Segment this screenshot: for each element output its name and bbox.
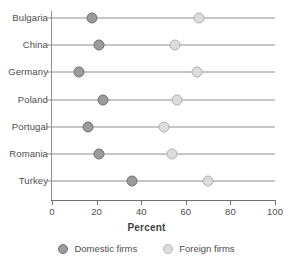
legend-label-domestic: Domestic firms: [74, 243, 137, 254]
x-tick-label-100: 100: [267, 206, 283, 217]
data-point-foreign-bulgaria[interactable]: [194, 13, 205, 24]
domestic-marker-icon: [58, 244, 68, 254]
category-label-china: China: [23, 40, 48, 50]
data-point-domestic-bulgaria[interactable]: [87, 13, 98, 24]
x-axis-title: Percent: [0, 222, 293, 233]
plot-area: BulgariaChinaGermanyPolandPortugalRomani…: [0, 0, 293, 215]
data-point-domestic-germany[interactable]: [73, 67, 84, 78]
x-tick-label-80: 80: [225, 206, 236, 217]
dot-plot-chart: BulgariaChinaGermanyPolandPortugalRomani…: [0, 0, 293, 269]
row-line: [52, 99, 275, 100]
data-point-domestic-portugal[interactable]: [82, 121, 93, 132]
category-label-portugal: Portugal: [12, 122, 48, 132]
legend-label-foreign: Foreign firms: [179, 243, 234, 254]
x-tick: [97, 200, 98, 205]
data-point-domestic-poland[interactable]: [98, 94, 109, 105]
data-point-foreign-china[interactable]: [169, 40, 180, 51]
x-tick-label-40: 40: [136, 206, 147, 217]
category-label-germany: Germany: [8, 67, 48, 77]
row-line: [52, 72, 275, 73]
data-point-domestic-turkey[interactable]: [127, 176, 138, 187]
data-point-domestic-china[interactable]: [93, 40, 104, 51]
x-tick-label-60: 60: [181, 206, 192, 217]
x-axis-line: [51, 200, 276, 201]
row-line: [52, 45, 275, 46]
data-point-foreign-poland[interactable]: [171, 94, 182, 105]
category-axis-line: [51, 11, 52, 200]
category-label-turkey: Turkey: [19, 176, 48, 186]
chart-legend: Domestic firms Foreign firms: [0, 243, 293, 254]
x-tick: [186, 200, 187, 205]
row-line: [52, 18, 275, 19]
legend-item-domestic[interactable]: Domestic firms: [58, 243, 137, 254]
data-point-foreign-turkey[interactable]: [203, 176, 214, 187]
x-tick: [52, 200, 53, 205]
foreign-marker-icon: [163, 244, 173, 254]
data-point-foreign-portugal[interactable]: [158, 121, 169, 132]
data-point-foreign-romania[interactable]: [167, 149, 178, 160]
row-line: [52, 181, 275, 182]
x-tick-label-20: 20: [91, 206, 102, 217]
category-label-poland: Poland: [18, 95, 48, 105]
data-point-foreign-germany[interactable]: [191, 67, 202, 78]
x-tick: [275, 200, 276, 205]
legend-item-foreign[interactable]: Foreign firms: [163, 243, 234, 254]
category-label-romania: Romania: [9, 149, 48, 159]
row-line: [52, 154, 275, 155]
x-tick-label-0: 0: [49, 206, 54, 217]
data-point-domestic-romania[interactable]: [93, 149, 104, 160]
x-tick: [141, 200, 142, 205]
x-tick: [230, 200, 231, 205]
category-label-bulgaria: Bulgaria: [12, 13, 48, 23]
